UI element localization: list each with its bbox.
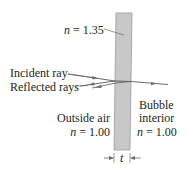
thin-film-diagram: n = 1.35 Incident ray Reflected rays Out…	[0, 0, 187, 174]
bubble-interior-label-line1: Bubble	[139, 99, 174, 111]
film-index-label: n = 1.35	[64, 24, 104, 36]
transmitted-ray	[131, 82, 168, 85]
outside-air-index: n = 1.00	[56, 126, 110, 138]
inside-index-value: = 1.00	[143, 125, 177, 139]
outside-index-value: = 1.00	[76, 125, 110, 139]
thickness-arrowhead-right-icon	[130, 156, 135, 160]
film-index-value: = 1.35	[70, 23, 104, 37]
reflected-rays-label: Reflected rays	[10, 81, 79, 93]
incident-ray-label: Incident ray	[10, 67, 68, 79]
thickness-arrowhead-left-icon	[109, 156, 114, 160]
outside-air-label: Outside air	[56, 112, 110, 124]
reflected-ray-1	[80, 81, 115, 86]
transmitted-arrowhead-icon	[151, 82, 157, 85]
bubble-interior-index: n = 1.00	[137, 126, 177, 138]
thickness-label: t	[120, 152, 123, 164]
bubble-interior-label-line2: interior	[139, 112, 174, 124]
